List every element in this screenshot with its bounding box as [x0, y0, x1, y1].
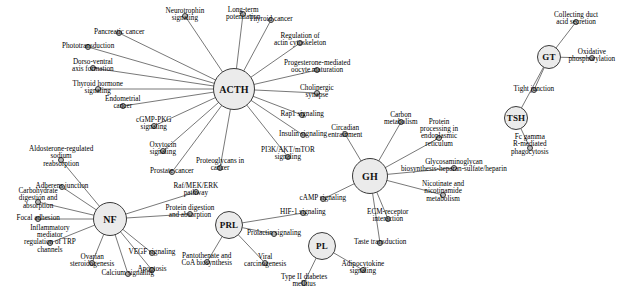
hub-node-pl[interactable]: PL	[308, 232, 336, 260]
hub-label-tsh: TSH	[507, 113, 526, 123]
hub-node-acth[interactable]: ACTH	[213, 68, 255, 110]
hub-node-nf[interactable]: NF	[93, 202, 127, 236]
hub-node-gt[interactable]: GT	[537, 45, 561, 69]
hub-label-acth: ACTH	[219, 84, 249, 95]
hub-node-prl[interactable]: PRL	[215, 211, 243, 239]
hub-label-pl: PL	[316, 241, 328, 251]
network-diagram-canvas: ACTHNFPRLGHPLGTTSH Neurotrophin signalin…	[0, 0, 626, 304]
hub-label-gt: GT	[542, 52, 555, 62]
hub-node-gh[interactable]: GH	[352, 158, 388, 194]
hub-node-tsh[interactable]: TSH	[504, 106, 528, 130]
hub-label-nf: NF	[103, 214, 117, 225]
hub-label-prl: PRL	[220, 220, 239, 230]
edge-layer	[0, 0, 626, 304]
hub-label-gh: GH	[362, 171, 378, 182]
